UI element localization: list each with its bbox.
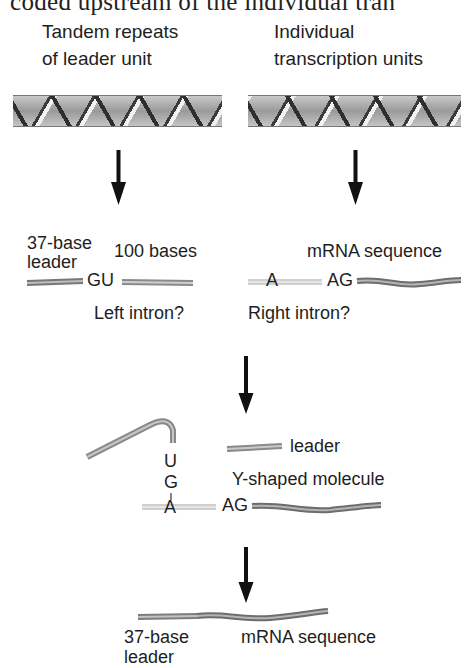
- down-arrow-icon: [239, 547, 254, 603]
- released-leader-strand: [227, 446, 282, 449]
- diagram-graphics: [0, 0, 473, 668]
- intron-100-bases-strand: [122, 282, 193, 283]
- down-arrow-icon: [111, 150, 126, 205]
- y-mrna-strand: [252, 505, 381, 510]
- leader-label-line2: leader: [27, 253, 77, 272]
- y-branch-strand: [87, 421, 173, 457]
- g-nucleotide-label: G: [164, 473, 178, 492]
- y-shaped-molecule-label: Y-shaped molecule: [232, 470, 384, 489]
- y-ag-label: AG: [222, 496, 248, 515]
- down-arrow-icon: [239, 356, 254, 414]
- final-mrna-sequence-label: mRNA sequence: [241, 628, 376, 647]
- released-leader-label: leader: [290, 437, 340, 456]
- mrna-sequence-label: mRNA sequence: [307, 242, 442, 261]
- spliced-leader-strand: [138, 616, 197, 617]
- a-nucleotide-label: A: [164, 498, 176, 517]
- gu-splice-site-label: GU: [87, 271, 114, 290]
- final-leader-label-line1: 37-base: [124, 628, 189, 647]
- branch-a-label: A: [266, 271, 278, 290]
- mrna-strand: [357, 280, 461, 285]
- right-intron-label: Right intron?: [248, 304, 350, 323]
- ag-splice-site-label: AG: [327, 271, 353, 290]
- final-leader-label-line2: leader: [124, 648, 174, 667]
- leader-label-line1: 37-base: [27, 234, 92, 253]
- down-arrow-icon: [348, 150, 363, 205]
- u-nucleotide-label: U: [164, 452, 177, 471]
- leader-rna-strand: [27, 281, 83, 283]
- left-intron-label: Left intron?: [94, 304, 184, 323]
- spliced-mrna-strand: [197, 611, 328, 618]
- bases-count-label: 100 bases: [114, 242, 197, 261]
